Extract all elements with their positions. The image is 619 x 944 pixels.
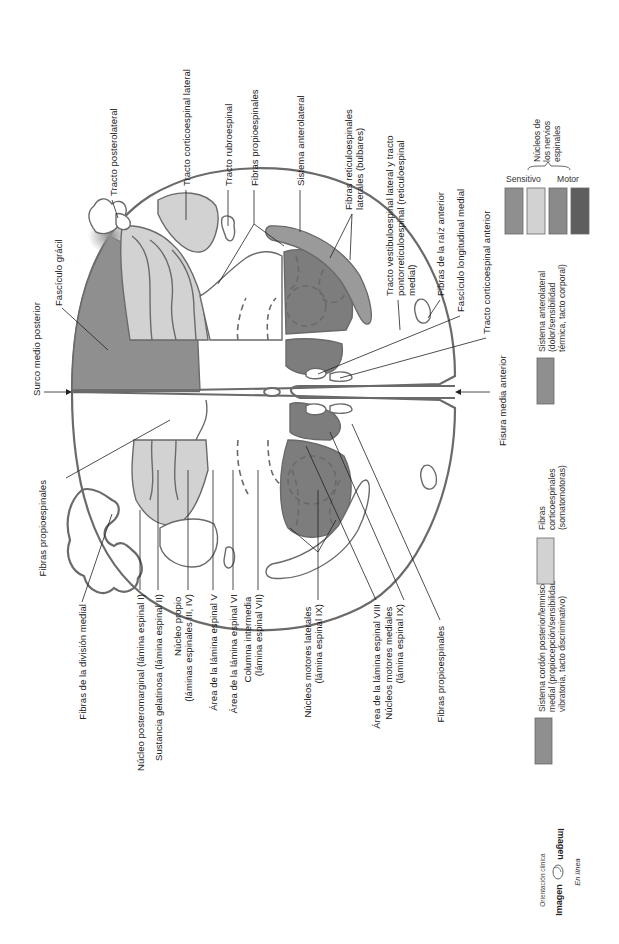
lateral-corticospinal-tract-lower	[160, 519, 218, 567]
label-fasciculo-gracil: Fascículo grácil	[53, 239, 64, 306]
gray-matter-intermediate-upper	[200, 252, 282, 340]
legend-label-anterolateral: Sistema anterolateral (dolor/sensibilida…	[537, 264, 567, 352]
legend-swatch-corticospinal	[537, 538, 554, 584]
legend-sensitivo-label: Sensitivo	[506, 174, 541, 184]
brand-name-mirrored: Imagen	[556, 828, 566, 860]
label-columna-intermedia: Columna intermedia (lámina espinal VII)	[242, 594, 264, 683]
brand-logo: Orientación clínica Imagen Imagen En lín…	[539, 828, 582, 916]
legend-swatch-anterolateral	[537, 358, 554, 404]
label-lamina-v: Área de la lámina espinal V	[208, 593, 219, 710]
brand-subtitle: Orientación clínica	[539, 853, 546, 907]
nuclei-legend: Núcleos de los nervios espinales Sensiti…	[505, 117, 589, 234]
label-lamina-vi: Área de la lámina espinal VI	[228, 594, 239, 713]
anterior-corticospinal-upper	[330, 372, 352, 381]
dashed-boundary-lower-1	[237, 440, 248, 494]
label-fibras-propioespinales-bottom: Fibras propioespinales	[435, 626, 446, 723]
label-sistema-anterolateral: Sistema anterolateral	[295, 95, 306, 186]
label-nucleo-propio: Núcleo propio (láminas espinales III, IV…	[172, 594, 194, 702]
label-sustancia-gelatinosa: Sustancia gelatinosa (lámina espinal II)	[153, 594, 164, 761]
label-fibras-raiz-anterior: Fibras de la raíz anterior	[435, 191, 446, 296]
label-tracto-corticoespinal-anterior: Tracto corticoespinal anterior	[481, 210, 492, 334]
label-fibras-reticuloespinales: Fibras reticuloespinales laterales (bulb…	[343, 107, 365, 210]
dorsal-root-lower	[68, 489, 142, 593]
dashed-boundary-lower-2	[268, 440, 280, 484]
anterior-corticospinal-lower	[330, 404, 352, 413]
medial-longitudinal-fasciculus-upper	[306, 368, 326, 378]
label-fibras-propioespinales-left: Fibras propioespinales	[37, 480, 48, 577]
leader-reticulo-b	[350, 214, 352, 260]
label-tracto-posterolateral: Tracto posterolateral	[108, 108, 119, 196]
legend-motor-label: Motor	[557, 174, 579, 184]
central-canal	[264, 388, 280, 396]
label-tracto-rubroespinal: Tracto rubroespinal	[223, 104, 234, 186]
leader-corticoespinal-anterior	[340, 338, 486, 378]
posterior-horn-lower	[132, 440, 208, 525]
swatch-sensory-light	[527, 188, 545, 234]
label-fisura-media-anterior: Fisura media anterior	[497, 355, 508, 446]
label-nucleos-motores-mediales: Núcleos motores mediales (lámina espinal…	[383, 604, 405, 720]
label-surco-medio-posterior: Surco medio posterior	[31, 301, 42, 396]
head-profile-icon	[553, 865, 563, 879]
label-lamina-viii: Área de la lámina espinal VIII	[371, 604, 382, 729]
brand-name: Imagen	[554, 884, 564, 916]
label-tracto-corticoespinal-lateral: Tracto corticoespinal lateral	[181, 69, 192, 186]
legend-label-dorsal-column: Sistema cordón posterior/lemnisco medial…	[537, 578, 567, 712]
posterolateral-tract	[116, 214, 130, 230]
labels: Surco medio posterior Fascículo grácil T…	[31, 69, 508, 771]
label-fasciculo-longitudinal-medial: Fascículo longitudinal medial	[455, 189, 466, 312]
posterior-horn-lower-border	[196, 400, 207, 440]
label-nucleo-posteromarginal: Núcleo posteromarginal (lámina espinal I…	[135, 594, 146, 771]
nuclei-legend-brace	[528, 162, 570, 170]
nuclei-legend-title: Núcleos de los nervios espinales	[532, 117, 562, 162]
label-tracto-vestibuloespinal: Tracto vestibuloespinal lateral y tracto…	[384, 133, 417, 296]
arrowhead-fisura	[455, 389, 461, 395]
leader-propio-bottom	[352, 424, 440, 620]
spinal-cord-cross-section-figure: Surco medio posterior Fascículo grácil T…	[0, 0, 619, 944]
swatch-sensory-dark	[505, 188, 523, 234]
label-fibras-propioespinales-top: Fibras propioespinales	[249, 89, 260, 186]
legend-swatch-dorsal-column	[535, 718, 552, 764]
leader-division-medial	[82, 514, 112, 602]
label-fibras-division-medial: Fibras de la división medial	[77, 604, 88, 720]
tract-legend: Sistema cordón posterior/lemnisco medial…	[535, 264, 567, 764]
leader-reticulo-a	[330, 214, 352, 258]
swatch-motor-dark	[571, 188, 589, 234]
ventral-root-upper	[415, 299, 431, 323]
brand-tagline: En línea	[573, 858, 582, 886]
ventral-root-lower	[421, 465, 437, 489]
label-nucleos-motores-laterales: Núcleos motores laterales (lámina espina…	[302, 604, 324, 718]
legend-label-corticospinal: Fibras corticoespinales (somatomotoras)	[537, 465, 567, 530]
swatch-motor-medium	[549, 188, 567, 234]
leader-vestibulo	[398, 300, 400, 330]
medial-longitudinal-fasciculus-lower	[306, 404, 326, 415]
